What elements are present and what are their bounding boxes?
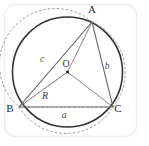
- side-label-b: b: [105, 61, 110, 71]
- side-label-a: a: [62, 110, 67, 120]
- vertex-label-b: B: [6, 102, 13, 114]
- center-label-o: O: [62, 58, 69, 69]
- circumcircle-triangle-diagram: A B C O R a b c: [0, 0, 149, 146]
- panel-border: [5, 5, 137, 137]
- vertex-label-a: A: [88, 3, 96, 15]
- vertex-label-c: C: [114, 102, 121, 114]
- radius-label-r: R: [41, 90, 48, 101]
- geometry-figure-panel: A B C O R a b c: [0, 0, 149, 146]
- center-point-dot: [66, 71, 69, 74]
